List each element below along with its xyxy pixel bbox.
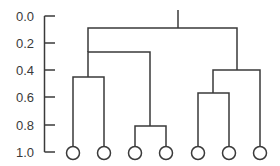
leaf-node xyxy=(254,147,267,160)
y-tick-label: 0.4 xyxy=(16,63,34,78)
y-tick-labels: 0.0 0.2 0.4 0.6 0.8 1.0 xyxy=(16,9,34,160)
y-axis xyxy=(45,16,56,152)
y-tick-label: 0.8 xyxy=(16,118,34,133)
y-tick-label: 0.2 xyxy=(16,36,34,51)
merge-c4 xyxy=(213,70,260,146)
dendrogram-links xyxy=(73,10,260,146)
leaf-node xyxy=(160,147,173,160)
y-tick-label: 0.0 xyxy=(16,9,34,24)
leaf-node xyxy=(98,147,111,160)
leaf-node xyxy=(223,147,236,160)
merge-c1 xyxy=(135,126,166,146)
merge-c3 xyxy=(73,77,104,146)
dendrogram-chart: 0.0 0.2 0.4 0.6 0.8 1.0 xyxy=(0,0,280,166)
merge-c5 xyxy=(88,52,150,126)
merge-root xyxy=(88,28,237,70)
leaf-node xyxy=(67,147,80,160)
y-tick-label: 0.6 xyxy=(16,90,34,105)
merge-c2 xyxy=(198,93,229,146)
leaf-node xyxy=(192,147,205,160)
y-tick-label: 1.0 xyxy=(16,145,34,160)
leaf-node xyxy=(129,147,142,160)
dendrogram-leaves xyxy=(67,147,267,160)
